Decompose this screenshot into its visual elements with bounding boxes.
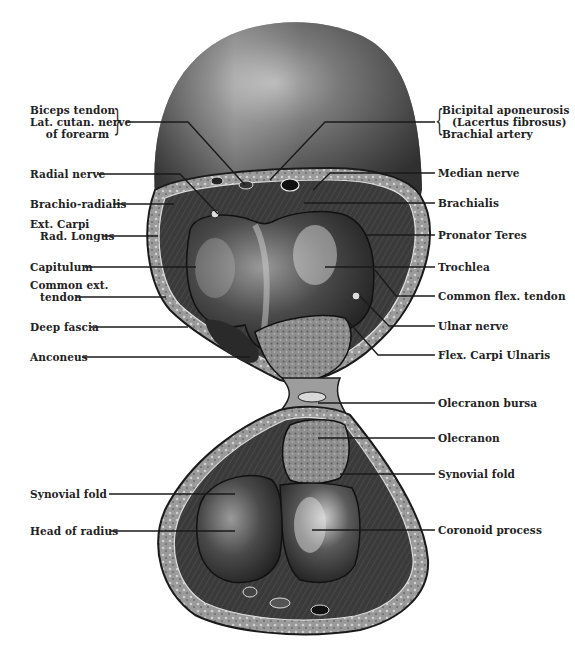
label-brachialis: Brachialis <box>438 197 499 209</box>
right-brace-icon: } <box>113 105 122 135</box>
label-line: Bicipital aponeurosis <box>442 104 569 116</box>
anatomy-figure: Biceps tendon Lat. cutan. nerve of forea… <box>0 0 575 664</box>
label-olecranon-bursa: Olecranon bursa <box>438 397 537 409</box>
label-line: Brachial artery <box>442 128 569 140</box>
label-radial-nerve: Radial nerve <box>30 168 105 180</box>
label-capitulum: Capitulum <box>30 261 93 273</box>
label-line: of forearm <box>30 128 115 140</box>
label-common-ext-tendon: Common ext. tendon <box>30 279 108 303</box>
lower-olecranon <box>283 420 350 484</box>
label-ext-carpi-rad-longus: Ext. Carpi Rad. Longus <box>30 218 114 242</box>
label-head-of-radius: Head of radius <box>30 525 118 537</box>
label-line: Lat. cutan. nerve <box>30 116 115 128</box>
label-flex-carpi-ulnaris: Flex. Carpi Ulnaris <box>438 349 550 361</box>
label-coronoid-process: Coronoid process <box>438 524 542 536</box>
label-bicipital-aponeurosis: Bicipital aponeurosis (Lacertus fibrosus… <box>442 104 569 140</box>
label-anconeus: Anconeus <box>30 351 88 363</box>
label-line: Rad. Longus <box>30 230 114 242</box>
label-line: Common ext. <box>30 279 108 291</box>
label-common-flex-tendon: Common flex. tendon <box>438 290 566 302</box>
label-brachio-radialis: Brachio-radialis <box>30 198 127 210</box>
label-trochlea: Trochlea <box>438 261 490 273</box>
label-ulnar-nerve: Ulnar nerve <box>438 320 509 332</box>
label-synovial-fold-left: Synovial fold <box>30 488 107 500</box>
label-pronator-teres: Pronator Teres <box>438 229 527 241</box>
label-synovial-fold-right: Synovial fold <box>438 468 515 480</box>
label-line: (Lacertus fibrosus) <box>442 116 569 128</box>
label-deep-fascia: Deep fascia <box>30 321 99 333</box>
label-biceps-tendon: Biceps tendon Lat. cutan. nerve of forea… <box>30 104 115 140</box>
label-line: tendon <box>30 291 108 303</box>
label-line: Biceps tendon <box>30 104 115 116</box>
label-line: Ext. Carpi <box>30 218 114 230</box>
label-median-nerve: Median nerve <box>438 167 520 179</box>
head-of-radius <box>197 476 283 583</box>
label-olecranon: Olecranon <box>438 432 500 444</box>
